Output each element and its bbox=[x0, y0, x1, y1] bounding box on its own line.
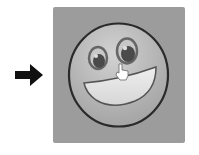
smiley-face-icon[interactable] bbox=[0, 0, 199, 155]
left-eye bbox=[89, 47, 107, 69]
right-eye bbox=[117, 39, 137, 64]
